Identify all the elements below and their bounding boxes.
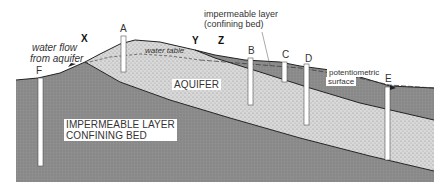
upper-confining-label-line1: impermeable layer [204,9,278,19]
well-D-label: D [305,54,312,64]
lower-confining-label: IMPERMEABLE LAYER CONFINING BED [64,119,177,141]
water-table-label: water table [145,46,184,55]
well-E [385,87,390,160]
upper-confining-label: impermeable layer (confining bed) [204,9,278,29]
potentiometric-label-line2: surface [326,77,356,86]
well-A [121,36,126,72]
water-flow-label-line1: water flow [30,42,83,53]
point-z-label: Z [218,36,224,46]
water-flow-label-line2: from aquifer [30,53,83,64]
well-C-label: C [282,50,289,60]
potentiometric-label: potentiometric surface [327,68,381,86]
water-flow-label: water flow from aquifer [30,42,83,64]
well-B [248,58,253,105]
well-A-label: A [120,24,127,34]
aquifer-label: AQUIFER [172,79,221,90]
upper-confining-label-line2: (confining bed) [204,19,278,29]
well-F-label: F [36,66,42,76]
well-C [282,62,287,82]
potentiometric-label-line1: potentiometric [327,68,381,77]
well-D [304,64,309,125]
point-y-label: Y [192,36,199,46]
well-E-label: E [385,74,392,84]
well-F [38,78,43,166]
well-B-label: B [248,46,255,56]
lower-confining-label-line1: IMPERMEABLE LAYER [66,119,175,130]
lower-confining-label-line2: CONFINING BED [66,130,175,141]
